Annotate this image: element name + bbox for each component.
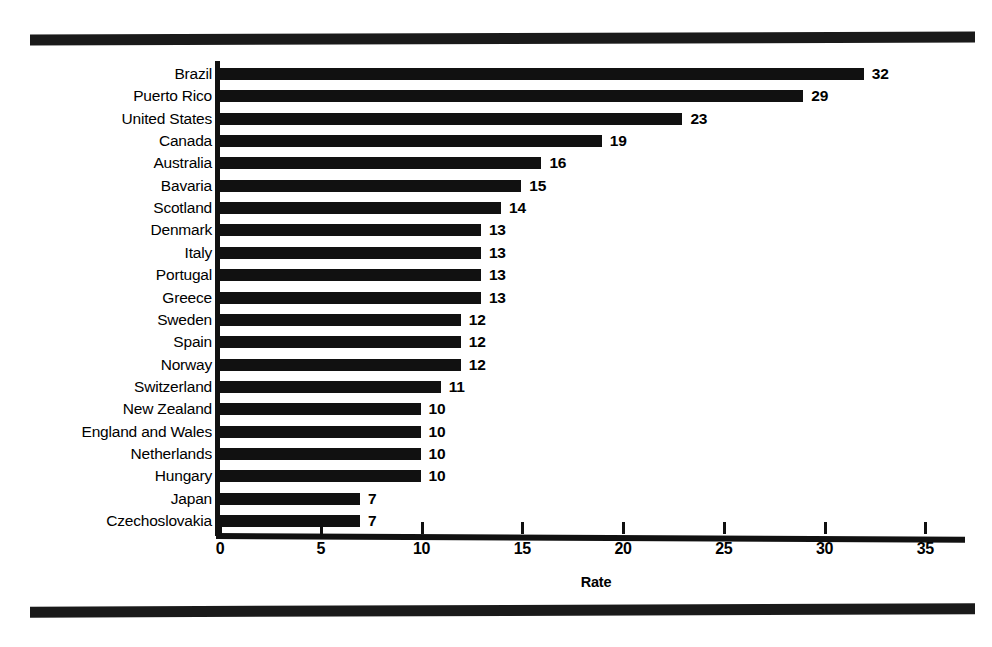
bar-chart-plot-area: Brazil32Puerto Rico29United States23Cana… [0, 0, 992, 647]
bar [219, 336, 461, 348]
x-axis-title: Rate [0, 574, 992, 590]
x-axis-tick [320, 522, 323, 534]
bar-value-label: 7 [368, 510, 376, 532]
x-axis-tick [219, 522, 222, 534]
bar [219, 180, 521, 192]
x-axis-title-text: Rate [581, 574, 612, 590]
x-axis-tick [521, 522, 524, 534]
category-label: England and Wales [0, 421, 212, 443]
x-axis-tick [622, 522, 625, 534]
x-axis-tick-label: 35 [905, 540, 945, 558]
x-axis-tick-label: 30 [805, 540, 845, 558]
bar-value-label: 10 [429, 398, 446, 420]
category-label: Portugal [0, 264, 212, 286]
x-axis-tick-label: 0 [200, 540, 240, 558]
bar-row: Greece13 [0, 287, 992, 309]
bar-value-label: 11 [449, 376, 465, 398]
bar-value-label: 19 [610, 130, 627, 152]
bar-value-label: 12 [469, 309, 486, 331]
bar-value-label: 7 [368, 488, 376, 510]
bar-row: Sweden12 [0, 309, 992, 331]
bar-value-label: 10 [429, 465, 446, 487]
bar-value-label: 13 [489, 242, 506, 264]
bar-value-label: 10 [429, 421, 446, 443]
x-axis-tick-label: 20 [603, 540, 643, 558]
bar-value-label: 13 [489, 287, 506, 309]
bar [219, 202, 501, 214]
category-label: Australia [0, 152, 212, 174]
bar [219, 68, 864, 80]
bar-value-label: 15 [529, 175, 546, 197]
bar-row: Brazil32 [0, 63, 992, 85]
category-label: Bavaria [0, 175, 212, 197]
bar [219, 157, 541, 169]
bar-row: Portugal13 [0, 264, 992, 286]
bar-value-label: 14 [509, 197, 526, 219]
bar-value-label: 13 [489, 264, 506, 286]
x-axis-tick-label: 15 [502, 540, 542, 558]
x-axis-tick [421, 522, 424, 534]
bar-row: New Zealand10 [0, 398, 992, 420]
bar-value-label: 12 [469, 354, 486, 376]
bar-value-label: 12 [469, 331, 486, 353]
bar-row: Japan7 [0, 488, 992, 510]
category-label: Sweden [0, 309, 212, 331]
bar-value-label: 32 [872, 63, 889, 85]
category-label: Japan [0, 488, 212, 510]
bar-row: England and Wales10 [0, 421, 992, 443]
bar-row: Puerto Rico29 [0, 85, 992, 107]
bar [219, 359, 461, 371]
x-axis-tick [824, 522, 827, 534]
category-label: Italy [0, 242, 212, 264]
bar [219, 314, 461, 326]
category-label: Netherlands [0, 443, 212, 465]
category-label: United States [0, 108, 212, 130]
bar-row: Switzerland11 [0, 376, 992, 398]
bar [219, 381, 441, 393]
category-label: Brazil [0, 63, 212, 85]
bar [219, 493, 360, 505]
category-label: Spain [0, 331, 212, 353]
bar-row: Norway12 [0, 354, 992, 376]
bar [219, 90, 803, 102]
x-axis-tick [723, 522, 726, 534]
bar-row: Australia16 [0, 152, 992, 174]
bar [219, 470, 421, 482]
category-label: Puerto Rico [0, 85, 212, 107]
bar [219, 515, 360, 527]
bar-row: United States23 [0, 108, 992, 130]
bar [219, 426, 421, 438]
category-label: Switzerland [0, 376, 212, 398]
category-label: New Zealand [0, 398, 212, 420]
category-label: Scotland [0, 197, 212, 219]
bar-row: Hungary10 [0, 465, 992, 487]
bar [219, 224, 481, 236]
bar-row: Scotland14 [0, 197, 992, 219]
bar [219, 292, 481, 304]
chart-page: Brazil32Puerto Rico29United States23Cana… [0, 0, 992, 647]
category-label: Hungary [0, 465, 212, 487]
x-axis-tick-label: 25 [704, 540, 744, 558]
bar [219, 448, 421, 460]
bar-row: Italy13 [0, 242, 992, 264]
category-label: Czechoslovakia [0, 510, 212, 532]
bar-value-label: 23 [690, 108, 707, 130]
bar-row: Denmark13 [0, 219, 992, 241]
bar-row: Czechoslovakia7 [0, 510, 992, 532]
bar-value-label: 10 [429, 443, 446, 465]
category-label: Denmark [0, 219, 212, 241]
bar-row: Canada19 [0, 130, 992, 152]
bar-value-label: 13 [489, 219, 506, 241]
x-axis-tick [924, 522, 927, 534]
bar [219, 247, 481, 259]
category-label: Canada [0, 130, 212, 152]
x-axis-tick-label: 5 [301, 540, 341, 558]
bar-row: Netherlands10 [0, 443, 992, 465]
bar-row: Bavaria15 [0, 175, 992, 197]
bar-value-label: 16 [549, 152, 566, 174]
bar [219, 269, 481, 281]
x-axis-tick-label: 10 [402, 540, 442, 558]
bar [219, 113, 682, 125]
bar [219, 403, 421, 415]
bar-row: Spain12 [0, 331, 992, 353]
